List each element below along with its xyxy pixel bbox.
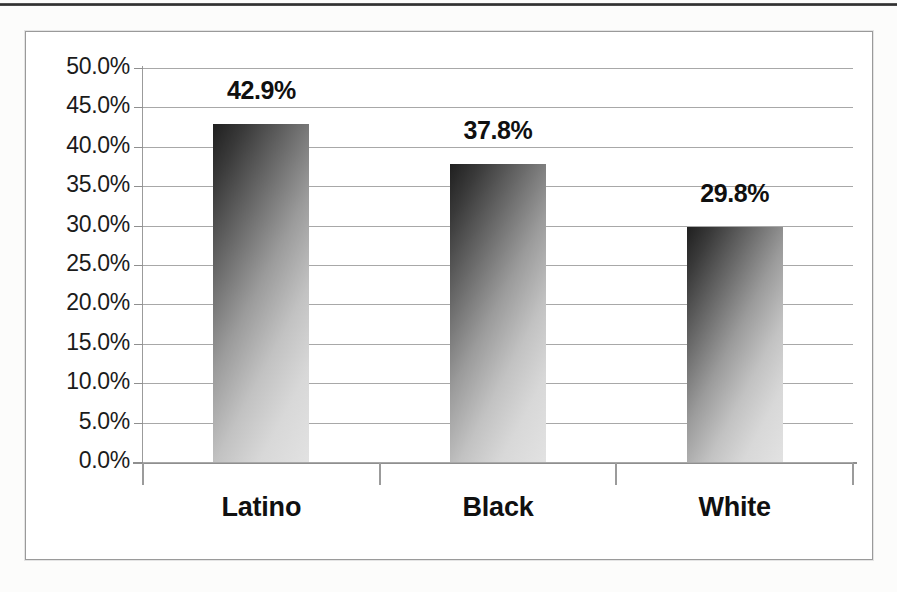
y-axis-tick-label: 35.0% xyxy=(20,171,130,198)
y-axis-tick-label: 0.0% xyxy=(20,447,130,474)
y-axis-tick-mark xyxy=(134,344,143,345)
x-axis-category-label: White xyxy=(635,492,835,523)
y-axis-tick-label: 5.0% xyxy=(20,408,130,435)
x-axis-tick-mark xyxy=(142,463,144,485)
y-axis-tick-mark xyxy=(134,383,143,384)
bar-black[interactable] xyxy=(450,164,546,462)
y-axis-tick-label: 30.0% xyxy=(20,211,130,238)
y-axis-tick-mark xyxy=(134,265,143,266)
bar-value-label: 29.8% xyxy=(655,179,815,208)
gridline xyxy=(143,462,853,463)
y-axis-tick-mark xyxy=(134,68,143,69)
y-axis-tick-mark xyxy=(134,226,143,227)
y-axis-tick-mark xyxy=(134,423,143,424)
y-axis-tick-label: 25.0% xyxy=(20,250,130,277)
x-axis-tick-mark xyxy=(852,463,854,485)
y-axis-tick-label: 45.0% xyxy=(20,92,130,119)
x-axis-category-label: Latino xyxy=(161,492,361,523)
y-axis-tick-mark xyxy=(134,147,143,148)
y-axis-tick-mark xyxy=(134,186,143,187)
y-axis-tick-label: 20.0% xyxy=(20,289,130,316)
bar-latino[interactable] xyxy=(213,124,309,462)
y-axis-tick-label: 10.0% xyxy=(20,368,130,395)
bar-white[interactable] xyxy=(687,227,783,462)
bar-value-label: 42.9% xyxy=(181,76,341,105)
x-axis-tick-mark xyxy=(615,463,617,485)
x-axis-tick-mark xyxy=(379,463,381,485)
y-axis-tick-label: 15.0% xyxy=(20,329,130,356)
top-horizontal-rule xyxy=(0,3,897,6)
page-canvas: 50.0%45.0%40.0%35.0%30.0%25.0%20.0%15.0%… xyxy=(0,0,897,592)
y-axis-tick-mark xyxy=(134,107,143,108)
y-axis-tick-mark xyxy=(134,304,143,305)
bar-value-label: 37.8% xyxy=(418,116,578,145)
y-axis-tick-label: 50.0% xyxy=(20,53,130,80)
x-axis-category-label: Black xyxy=(398,492,598,523)
y-axis-tick-label: 40.0% xyxy=(20,132,130,159)
y-axis-labels: 50.0%45.0%40.0%35.0%30.0%25.0%20.0%15.0%… xyxy=(18,0,130,592)
